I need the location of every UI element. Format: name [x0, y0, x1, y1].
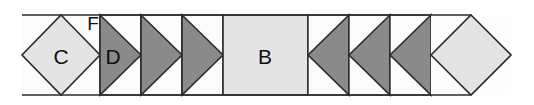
cell-3 [141, 15, 182, 95]
label-f: F [87, 13, 99, 34]
cell-8 [390, 15, 431, 95]
cell-d-label: D [105, 45, 120, 68]
chevron-strip-diagram: C D B [0, 0, 534, 105]
cell-7 [349, 15, 390, 95]
cell-6 [308, 15, 349, 95]
cell-c-label: C [53, 45, 68, 68]
cell-d: D [100, 15, 141, 95]
cell-b-label: B [258, 45, 272, 68]
cell-4 [182, 15, 223, 95]
diagram-canvas: C D B [0, 0, 534, 105]
cell-b: B [223, 15, 308, 95]
cell-end [431, 15, 511, 95]
